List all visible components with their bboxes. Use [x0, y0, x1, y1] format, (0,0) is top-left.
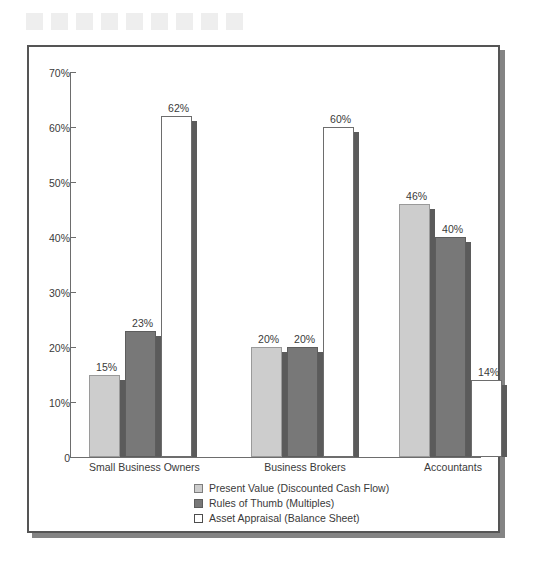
bar-group: 20%20%60% [251, 72, 359, 457]
x-axis-category-label: Accountants [399, 461, 507, 473]
bar-value-label: 20% [294, 334, 315, 345]
y-axis-line [70, 72, 71, 457]
chart-panel: 010%20%30%40%50%60%70% 15%23%62%20%20%60… [27, 45, 500, 533]
bar-value-label: 15% [96, 361, 117, 372]
bar-body [125, 331, 156, 458]
bar: 40% [435, 237, 471, 457]
decorative-square [176, 13, 193, 30]
y-axis-tick [70, 457, 76, 458]
bar-value-label: 60% [330, 114, 351, 125]
y-axis-tick [70, 292, 76, 293]
bar-value-label: 62% [168, 103, 189, 114]
decorative-square [226, 13, 243, 30]
legend-swatch-icon [194, 514, 203, 523]
bar-body [161, 116, 192, 457]
bar-body [399, 204, 430, 457]
bar-value-label: 46% [406, 191, 427, 202]
chart-legend: Present Value (Discounted Cash Flow)Rule… [194, 481, 389, 526]
legend-item-label: Rules of Thumb (Multiples) [209, 498, 334, 509]
bar-shadow [192, 121, 197, 457]
bar: 62% [161, 116, 197, 457]
bar-value-label: 20% [258, 334, 279, 345]
legend-item-label: Asset Appraisal (Balance Sheet) [209, 513, 360, 524]
bar-body [323, 127, 354, 457]
legend-swatch-icon [194, 484, 203, 493]
bar: 20% [251, 347, 287, 457]
bar: 15% [89, 375, 125, 458]
bar-value-label: 14% [478, 367, 499, 378]
y-axis-tick [70, 182, 76, 183]
y-axis-tick [70, 127, 76, 128]
x-axis-line [70, 457, 481, 458]
bar: 46% [399, 204, 435, 457]
y-axis-tick-label: 40% [34, 233, 70, 244]
bar: 20% [287, 347, 323, 457]
bar-group: 15%23%62% [89, 72, 197, 457]
y-axis-tick-label: 10% [34, 398, 70, 409]
legend-item-label: Present Value (Discounted Cash Flow) [209, 483, 389, 494]
y-axis-tick-label: 30% [34, 288, 70, 299]
decorative-square [76, 13, 93, 30]
bar-shadow [502, 385, 507, 457]
plot-area: 010%20%30%40%50%60%70% 15%23%62%20%20%60… [29, 47, 502, 535]
chart-screenshot: 010%20%30%40%50%60%70% 15%23%62%20%20%60… [0, 0, 557, 570]
bar-body [251, 347, 282, 457]
decorative-square [126, 13, 143, 30]
y-axis-tick [70, 347, 76, 348]
legend-swatch-icon [194, 499, 203, 508]
legend-item: Rules of Thumb (Multiples) [194, 496, 389, 510]
decorative-square [51, 13, 68, 30]
x-axis-category-label: Business Brokers [251, 461, 359, 473]
bar-shadow [354, 132, 359, 457]
y-axis-tick-label: 60% [34, 123, 70, 134]
decorative-square [101, 13, 118, 30]
bar-value-label: 23% [132, 317, 153, 328]
x-axis-category-label: Small Business Owners [89, 461, 197, 473]
bar-body [435, 237, 466, 457]
bar-body [471, 380, 502, 457]
legend-item: Present Value (Discounted Cash Flow) [194, 481, 389, 495]
y-axis-tick-label: 50% [34, 178, 70, 189]
bar-value-label: 40% [442, 224, 463, 235]
y-axis-tick [70, 237, 76, 238]
y-axis-tick-label: 20% [34, 343, 70, 354]
bar-body [287, 347, 318, 457]
top-square-strip [26, 13, 243, 30]
bar: 60% [323, 127, 359, 457]
decorative-square [201, 13, 218, 30]
y-axis-tick-label: 70% [34, 68, 70, 79]
bar-group: 46%40%14% [399, 72, 507, 457]
decorative-square [151, 13, 168, 30]
bar: 14% [471, 380, 507, 457]
bar: 23% [125, 331, 161, 458]
y-axis-tick [70, 402, 76, 403]
legend-item: Asset Appraisal (Balance Sheet) [194, 511, 389, 525]
y-axis-tick [70, 72, 76, 73]
decorative-square [26, 13, 43, 30]
bar-body [89, 375, 120, 458]
y-axis-tick-label: 0 [34, 453, 70, 464]
